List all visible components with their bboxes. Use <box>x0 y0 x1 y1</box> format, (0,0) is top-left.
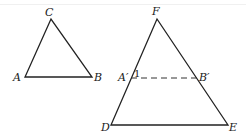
label-a: A <box>12 71 21 84</box>
triangle-abc-outline <box>25 19 92 77</box>
similar-triangles-diagram: A B C F D E A′ B′ 1 <box>0 0 246 139</box>
triangle-def-outline <box>111 19 228 125</box>
angle-1-label: 1 <box>134 68 140 79</box>
label-f: F <box>151 5 160 18</box>
triangle-def: F D E A′ B′ 1 <box>100 5 237 134</box>
label-e: E <box>228 121 237 134</box>
label-b: B <box>93 71 102 84</box>
triangle-abc: A B C <box>12 6 102 84</box>
label-a-prime: A′ <box>117 71 129 84</box>
label-c: C <box>45 6 54 19</box>
label-d: D <box>100 121 110 134</box>
label-b-prime: B′ <box>198 71 210 84</box>
